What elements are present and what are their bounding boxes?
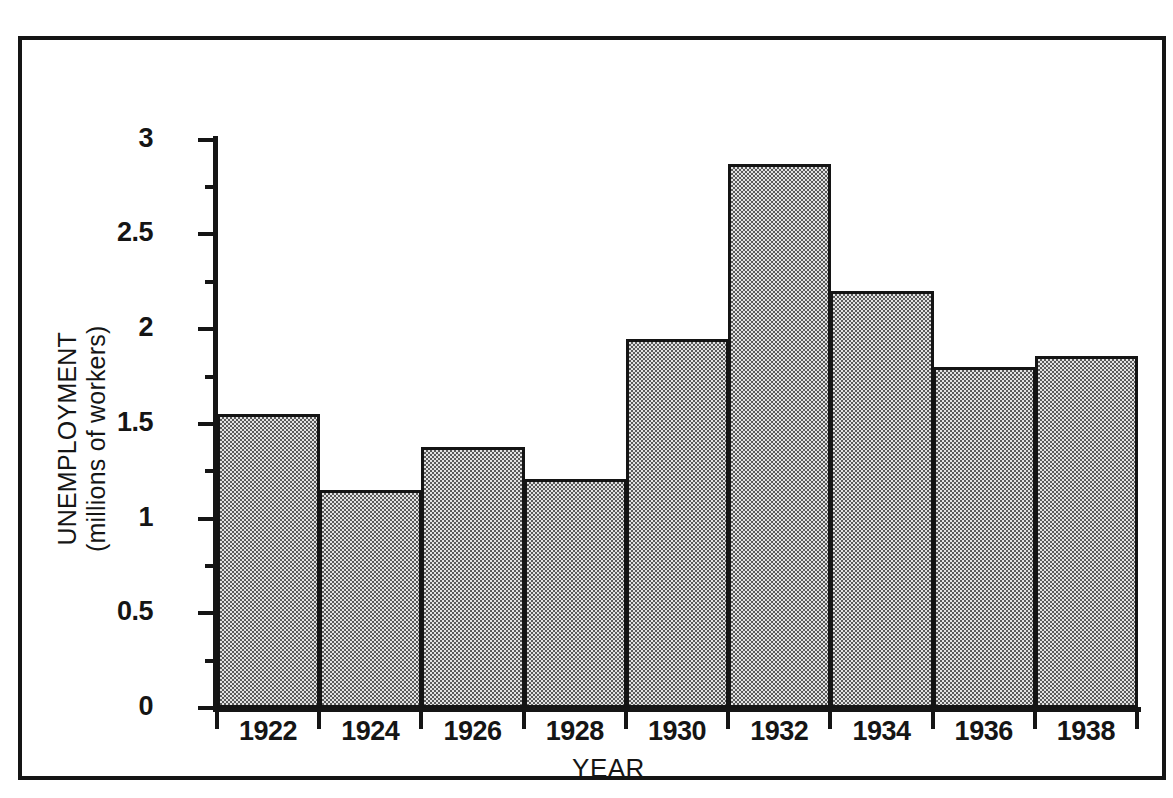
- y-axis-tick-label: 0.5: [117, 596, 153, 627]
- x-axis-tick-label: 1932: [728, 716, 830, 747]
- bar: [830, 291, 933, 708]
- x-axis-tick-label: 1930: [626, 716, 728, 747]
- y-axis-tick-minor: [205, 469, 215, 473]
- x-axis-tick-label: 1924: [319, 716, 421, 747]
- bar: [319, 490, 422, 708]
- bar: [1035, 356, 1138, 708]
- bar: [626, 339, 729, 708]
- y-axis-title: UNEMPLOYMENT (millions of workers): [53, 159, 111, 719]
- bar: [524, 479, 627, 708]
- bar: [728, 164, 831, 708]
- y-axis-tick-minor: [205, 659, 215, 663]
- y-axis-tick-label: 0: [138, 691, 153, 722]
- bar: [421, 447, 524, 708]
- y-axis-tick-label: 1.5: [117, 407, 153, 438]
- y-axis-tick-label: 3: [138, 123, 153, 154]
- x-axis-tick-label: 1938: [1035, 716, 1137, 747]
- x-axis-tick-label: 1922: [217, 716, 319, 747]
- y-axis-tick-minor: [205, 280, 215, 284]
- y-axis-tick-major: [198, 327, 215, 331]
- y-axis-tick-major: [198, 232, 215, 236]
- x-axis-title: YEAR: [22, 753, 1173, 784]
- x-axis-tick-label: 1934: [830, 716, 932, 747]
- y-axis-tick-minor: [205, 185, 215, 189]
- y-axis-tick-major: [198, 611, 215, 615]
- y-axis-title-line-1: UNEMPLOYMENT: [53, 332, 81, 546]
- y-axis-tick-label: 2.5: [117, 217, 153, 248]
- y-axis-tick-label: 2: [138, 312, 153, 343]
- y-axis-tick-major: [198, 517, 215, 521]
- y-axis-tick-minor: [205, 564, 215, 568]
- y-axis-tick-major: [198, 138, 215, 142]
- y-axis-tick-label: 1: [138, 502, 153, 533]
- plot-area: [217, 136, 1137, 708]
- y-axis-tick-major: [198, 422, 215, 426]
- bar: [933, 367, 1036, 708]
- x-axis-tick-label: 1936: [933, 716, 1035, 747]
- y-axis-tick-major: [198, 706, 215, 710]
- bar: [217, 414, 320, 708]
- figure-border-frame: 00.511.522.53 19221924192619281930193219…: [18, 36, 1166, 780]
- x-axis-tick-label: 1928: [524, 716, 626, 747]
- y-axis-title-line-2: (millions of workers): [82, 159, 111, 719]
- x-axis-tick-label: 1926: [421, 716, 523, 747]
- y-axis-tick-minor: [205, 375, 215, 379]
- figure-root: 00.511.522.53 19221924192619281930193219…: [0, 0, 1173, 798]
